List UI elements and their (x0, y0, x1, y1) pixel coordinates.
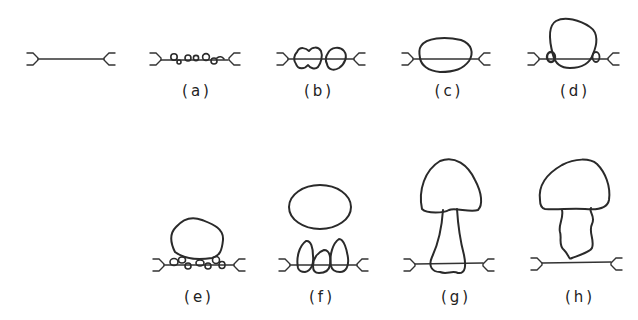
panel-c (402, 38, 490, 72)
panel-label-c: (c) (435, 82, 464, 100)
left-anchor-icon (27, 53, 38, 65)
panel-b (277, 48, 365, 70)
large-body (550, 19, 596, 68)
small-vesicles (171, 54, 224, 64)
side-vesicle-right (593, 52, 600, 62)
panel-a (150, 53, 240, 65)
panel-label-b: (b) (304, 82, 334, 100)
panel-label-a: (a) (182, 82, 212, 100)
panel-f (279, 185, 368, 273)
merged-vesicle-left (294, 48, 322, 69)
right-anchor-icon (104, 53, 115, 65)
irregular-stalk (560, 208, 594, 259)
teardrop-vesicle-1 (297, 241, 313, 272)
panel-g (404, 159, 494, 273)
teardrop-vesicle-3 (330, 239, 348, 272)
panel-h (531, 160, 622, 270)
panel-d (528, 19, 619, 68)
mushroom-cap (421, 159, 481, 212)
panel-e (153, 218, 245, 271)
panel-label-e: (e) (184, 288, 214, 306)
panel-label-g: (g) (441, 288, 471, 306)
diagram-canvas (0, 0, 638, 320)
panel-label-f: (f) (309, 288, 335, 306)
mushroom-cap (540, 160, 610, 210)
fused-body (419, 38, 471, 72)
teardrop-vesicle-2 (313, 250, 330, 273)
detached-oval (289, 185, 351, 229)
side-vesicle-left (547, 52, 555, 62)
panel-label-h: (h) (565, 288, 595, 306)
panel-label-d: (d) (560, 82, 590, 100)
panel-base (27, 53, 115, 65)
large-body (171, 218, 223, 259)
